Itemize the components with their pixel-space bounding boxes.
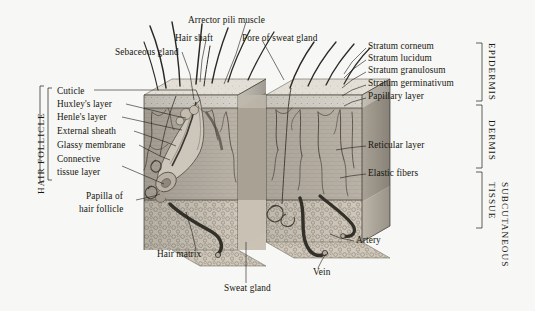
region-label-dermis: DERMIS xyxy=(487,120,497,161)
label-sebaceous-gland: Sebaceous gland xyxy=(115,47,179,58)
label-stratum-lucidum: Stratum lucidum xyxy=(368,53,432,64)
label-stratum-germinativum: Stratum germinativum xyxy=(368,78,454,89)
label-stratum-corneum: Stratum corneum xyxy=(368,41,434,52)
label-arrector-pili-muscle: Arrector pili muscle xyxy=(188,15,265,26)
label-connective-tissue-layer-line1: Connective xyxy=(57,154,100,165)
label-huxleys-layer: Huxley's layer xyxy=(57,99,112,110)
region-label-subcutaneous-tissue: TISSUE xyxy=(487,182,497,219)
label-hair-shaft: Hair shaft xyxy=(175,33,213,44)
region-label-subcutaneous: SUBCUTANEOUS xyxy=(500,182,510,267)
label-sweat-gland: Sweat gland xyxy=(224,283,271,294)
label-papilla-of-hair-follicle-line2: hair follicle xyxy=(79,204,123,215)
skin-anatomy-figure: Arrector pili muscle Hair shaft Pore of … xyxy=(0,0,535,311)
label-external-sheath: External sheath xyxy=(57,126,116,137)
region-label-hair-follicle: HAIR FOLLICLE xyxy=(36,112,46,194)
label-glassy-membrane: Glassy membrane xyxy=(57,140,125,151)
label-hair-matrix: Hair matrix xyxy=(157,249,201,260)
label-artery: Artery xyxy=(356,235,381,246)
label-stratum-granulosum: Stratum granulosum xyxy=(368,65,445,76)
label-papilla-of-hair-follicle-line1: Papilla of xyxy=(86,191,123,202)
center-recessed-slab xyxy=(238,95,266,250)
label-henles-layer: Henle's layer xyxy=(57,112,107,123)
label-vein: Vein xyxy=(313,267,330,278)
region-label-epidermis: EPIDERMIS xyxy=(487,43,497,101)
label-connective-tissue-layer-line2: tissue layer xyxy=(57,167,100,178)
label-reticular-layer: Reticular layer xyxy=(368,140,424,151)
label-pore-of-sweat-gland: Pore of sweat gland xyxy=(242,33,317,44)
label-papillary-layer: Papillary layer xyxy=(368,91,424,102)
label-elastic-fibers: Elastic fibers xyxy=(368,168,418,179)
label-cuticle: Cuticle xyxy=(57,86,85,97)
